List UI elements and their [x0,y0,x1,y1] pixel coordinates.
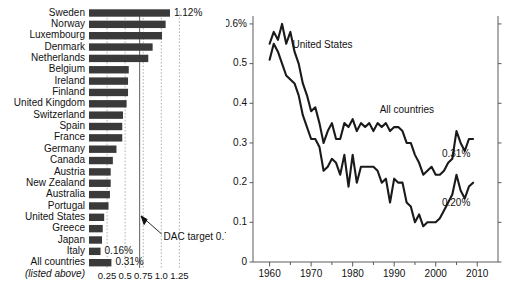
bar-chart-panel: Sweden1.12%NorwayLuxembourgDenmarkNether… [0,0,226,300]
bar-rect[interactable] [89,157,113,164]
bar-rect[interactable] [89,146,116,153]
bar-rect[interactable] [89,180,111,187]
bar-rect[interactable] [89,248,101,255]
bar-rect[interactable] [89,66,129,73]
bar-category-label: Italy [67,245,85,256]
bar-rect[interactable] [89,225,103,232]
bar-value-label: 0.31% [115,256,143,267]
x-axis-tick-label: 1990 [383,268,406,279]
y-axis-tick-label: 0.1 [233,216,247,227]
bar-category-label: Finland [52,86,85,97]
bar-category-label: Sweden [49,7,85,18]
bar-rect[interactable] [89,89,128,96]
bar-rect[interactable] [89,21,166,28]
bar-rect[interactable] [89,77,128,84]
bar-category-label: Japan [58,234,85,245]
bar-rect[interactable] [89,259,111,266]
bar-rect[interactable] [89,123,122,130]
bar-category-label: United States [25,211,85,222]
bar-category-label: Switzerland [33,109,85,120]
bar-rect[interactable] [89,134,122,141]
y-axis-tick-label: 0.4 [233,97,247,108]
bar-category-label: United Kingdom [14,97,85,108]
bar-value-label: 1.12% [174,7,202,18]
bar-rect[interactable] [89,214,104,221]
bar-category-label: Germany [44,143,85,154]
bar-x-tick-label: 1.25 [170,270,189,281]
bar-x-tick-label: 0.25 [98,270,117,281]
x-axis-tick-label: 2000 [425,268,448,279]
bar-value-label: 0.16% [105,245,133,256]
y-axis-tick-label: 0 [241,256,247,267]
dac-target-annotation: DAC target 0.7% [164,231,226,242]
bar-sub-caption: (listed above) [25,268,85,279]
bar-category-label: Spain [59,120,85,131]
bar-category-label: Austria [54,166,86,177]
bar-rect[interactable] [89,236,102,243]
x-axis-tick-label: 2010 [466,268,489,279]
y-axis-tick-label: 0.3 [233,137,247,148]
bar-rect[interactable] [89,202,109,209]
bar-category-label: Luxembourg [29,29,85,40]
figure-root: Sweden1.12%NorwayLuxembourgDenmarkNether… [0,0,506,300]
end-label-united-states: 0.20% [442,197,470,208]
bar-rect[interactable] [89,100,127,107]
y-axis-tick-label: 0.6% [226,18,247,29]
bar-category-label: All countries [31,256,85,267]
series-label-united-states: United States [292,39,352,50]
bar-rect[interactable] [89,55,148,62]
bar-category-label: New Zealand [26,177,85,188]
bar-category-label: Ireland [54,75,85,86]
x-axis-tick-label: 1980 [342,268,365,279]
bar-rect[interactable] [89,43,153,50]
bar-rect[interactable] [89,191,110,198]
line-chart-svg: 00.10.20.30.40.50.6%19601970198019902000… [226,0,506,300]
bar-category-label: France [54,131,86,142]
bar-x-tick-label: 0.5 [119,270,132,281]
bar-rect[interactable] [89,9,170,16]
end-label-all-countries: 0.31% [442,148,470,159]
bar-category-label: Greece [52,222,85,233]
series-label-all-countries: All countries [380,104,434,115]
bar-category-label: Belgium [49,63,85,74]
bar-rect[interactable] [89,111,123,118]
bar-x-tick-label: 1.0 [155,270,168,281]
bar-category-label: Portugal [48,200,85,211]
y-axis-tick-label: 0.2 [233,176,247,187]
bar-category-label: Netherlands [31,52,85,63]
bar-category-label: Canada [50,154,85,165]
x-axis-tick-label: 1960 [258,268,281,279]
x-axis-tick-label: 1970 [300,268,323,279]
bar-category-label: Norway [51,18,85,29]
bar-category-label: Australia [46,188,85,199]
line-chart-panel: 00.10.20.30.40.50.6%19601970198019902000… [226,0,506,300]
bar-category-label: Denmark [44,41,86,52]
dac-target-arrowhead [141,216,147,225]
y-axis-tick-label: 0.5 [233,57,247,68]
bar-rect[interactable] [89,32,162,39]
bar-rect[interactable] [89,168,111,175]
bar-chart-svg: Sweden1.12%NorwayLuxembourgDenmarkNether… [0,0,226,300]
bar-x-tick-label: 0.75 [134,270,153,281]
